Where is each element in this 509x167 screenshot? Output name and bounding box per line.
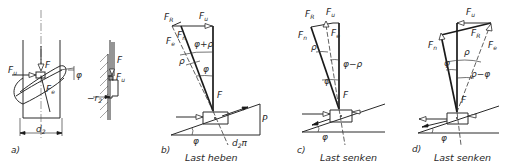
incline-hypotenuse-c [302,104,385,132]
force-Fu-arrowhead [29,73,36,78]
panel-b-caption: Last heben [185,152,238,163]
label-rho-d: ρ [464,47,470,57]
arc-phi-minus-rho [330,60,339,61]
panel-d-label: d) [412,144,421,154]
label-r2: −r2 [87,93,102,104]
label-side-Fu: Fu [116,72,125,83]
friction-arrowhead-c [352,110,360,114]
arc-rho-d [446,60,481,62]
Fe-arrowhead-d [486,24,492,31]
motion-arrowhead-c [312,122,318,126]
Fu-arrowhead-d [457,21,464,26]
label-F: F [45,60,51,70]
panel-c: FR Fu Fn Fe ρ φ−ρ φ F φ c) Last senken [297,7,385,163]
block-center [214,117,216,119]
panel-a: Fu F Fe φ d2 −r2 F Fu a) [8,10,125,155]
label-d2pi: d2π [232,138,248,149]
Fn-vector-d [441,35,457,112]
label-Fn-b: Fn [177,30,186,41]
panel-d-caption: Last senken [434,152,491,163]
label-FR-b: FR [164,12,173,23]
arc-base-phi-c [318,127,319,132]
Fn-vector-c [311,27,339,109]
label-phi-plus-rho: φ+ρ [194,39,213,49]
label-phi-b: φ [203,64,209,74]
label-phi: φ [76,70,82,80]
incline-hypotenuse [171,104,260,135]
label-rho-c: ρ [311,42,317,52]
Fe-extension-c [339,109,345,145]
label-phi-c: φ [324,76,330,86]
Fe-extension-d [457,112,461,145]
d2-arrow-left [20,132,25,135]
panel-d: Fu FR Fn Fe ρ φ ρ−φ F φ d) Last senken [412,7,499,163]
Fu-push-arrowhead [196,115,203,120]
thread-force-diagram: Fu F Fe φ d2 −r2 F Fu a) [0,0,509,167]
FR-vector-d [441,23,491,35]
force-F-arrowhead [38,64,44,71]
label-phi-d: φ [444,58,450,68]
label-Fu-b: Fu [199,11,208,22]
arc-phi-b [196,76,213,77]
label-Fe-b: Fe [166,36,175,47]
block-center-d [456,117,458,119]
arc-rho-b [186,61,200,65]
label-Fu: Fu [8,65,17,76]
friction-arrowhead-d [468,114,476,118]
label-phi-minus-rho: φ−ρ [343,59,362,69]
panel-b-label: b) [161,145,170,155]
label-Fu-c: Fu [326,7,335,18]
wall-hatching [100,54,108,118]
thread-helix-upper [20,66,66,92]
label-FR-d: FR [471,28,480,39]
label-base-phi-c: φ [322,132,328,142]
label-Fn-d: Fn [428,40,437,51]
panel-c-caption: Last senken [320,152,377,163]
arc-phi-d [446,70,457,71]
label-d2: d2 [36,124,46,135]
label-FR-c: FR [305,9,314,20]
Fu-push-arrowhead-d [419,117,426,122]
arc-base-phi-b [192,128,193,135]
arc-rho-c [316,52,328,53]
label-F-c: F [343,90,349,100]
label-Fe-d: Fe [488,40,497,51]
FR-vector-c [311,23,333,27]
label-F-b: F [217,90,223,100]
label-Fu-d: Fu [466,7,475,18]
panel-b: FR Fu Fn Fe φ+ρ ρ φ F φ d2π P b) Last he… [161,11,268,163]
d2-arrow-right [57,132,62,135]
panel-c-label: c) [297,145,305,155]
Fu-arrowhead-b [205,24,212,29]
label-rho-b: ρ [179,56,185,66]
label-base-phi-b: φ [193,136,199,146]
panel-a-label: a) [11,145,20,155]
label-rho-minus-phi: ρ−φ [471,69,490,79]
motion-arrowhead-d [422,124,428,127]
label-base-phi-d: φ [441,133,447,143]
label-side-F: F [117,55,123,65]
label-F-d: F [461,95,467,105]
Fu-push-arrowhead-c [323,112,330,117]
label-P: P [262,114,268,124]
label-Fn-c: Fn [298,30,307,41]
